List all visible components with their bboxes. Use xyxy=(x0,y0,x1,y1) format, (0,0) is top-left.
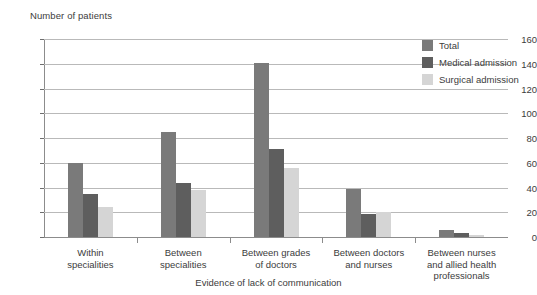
bar-surgical xyxy=(376,212,391,237)
y-axis-tick-label: 40 xyxy=(503,182,537,193)
legend-swatch xyxy=(422,57,433,68)
category-label-line: specialities xyxy=(137,259,230,271)
y-axis-tick-label: 20 xyxy=(503,207,537,218)
bar-total xyxy=(439,230,454,237)
y-axis-tick xyxy=(40,89,44,90)
y-axis-tick-label: 60 xyxy=(503,157,537,168)
bar-medical xyxy=(83,194,98,237)
y-axis-tick-label: 140 xyxy=(503,58,537,69)
bar-surgical xyxy=(191,190,206,237)
y-axis-tick xyxy=(40,113,44,114)
bar-total xyxy=(68,163,83,237)
y-axis-tick-label: 160 xyxy=(503,34,537,45)
y-axis-tick-label: 120 xyxy=(503,83,537,94)
bar-surgical xyxy=(284,168,299,237)
legend-label: Total xyxy=(439,40,459,51)
y-axis-tick xyxy=(40,212,44,213)
category-label-line: specialities xyxy=(44,259,137,271)
bar-surgical xyxy=(469,235,484,237)
category-separator-tick xyxy=(137,238,138,243)
x-axis-category-label: Betweenspecialities xyxy=(137,247,230,270)
bar-total xyxy=(254,63,269,237)
bar-total xyxy=(161,132,176,237)
bar-total xyxy=(346,189,361,237)
bar-group xyxy=(346,39,391,237)
category-label-line: Between xyxy=(137,247,230,259)
y-axis-tick xyxy=(40,188,44,189)
category-label-line: Between doctors xyxy=(322,247,415,259)
bar-medical xyxy=(269,149,284,237)
bar-medical xyxy=(176,183,191,237)
x-axis-category-label: Between doctorsand nurses xyxy=(322,247,415,270)
x-axis-title: Evidence of lack of communication xyxy=(0,277,537,288)
x-axis-line xyxy=(44,237,508,238)
category-separator-tick xyxy=(322,238,323,243)
y-axis-tick-label: 100 xyxy=(503,108,537,119)
category-label-line: of doctors xyxy=(230,259,323,271)
bar-group xyxy=(161,39,206,237)
y-axis-labels xyxy=(0,39,38,238)
bar-chart: Number of patients WithinspecialitiesBet… xyxy=(0,0,537,295)
x-axis-category-label: Withinspecialities xyxy=(44,247,137,270)
category-label-line: and nurses xyxy=(322,259,415,271)
x-axis-category-label: Between gradesof doctors xyxy=(230,247,323,270)
category-label-line: and allied health xyxy=(415,259,508,271)
category-separator-tick xyxy=(415,238,416,243)
bar-surgical xyxy=(98,207,113,237)
category-label-line: Within xyxy=(44,247,137,259)
category-label-line: Between grades xyxy=(230,247,323,259)
y-axis-tick xyxy=(40,39,44,40)
y-axis-tick xyxy=(40,237,44,238)
category-separator-tick xyxy=(230,238,231,243)
y-axis-tick xyxy=(40,163,44,164)
category-label-line: Between nurses xyxy=(415,247,508,259)
bar-group xyxy=(68,39,113,237)
y-axis-tick-label: 0 xyxy=(503,232,537,243)
bar-group xyxy=(254,39,299,237)
bar-medical xyxy=(361,214,376,238)
y-axis-tick-label: 80 xyxy=(503,133,537,144)
chart-title: Number of patients xyxy=(30,10,112,21)
legend-swatch xyxy=(422,40,433,51)
bar-medical xyxy=(454,233,469,237)
y-axis-tick xyxy=(40,64,44,65)
y-axis-tick xyxy=(40,138,44,139)
legend-swatch xyxy=(422,74,433,85)
